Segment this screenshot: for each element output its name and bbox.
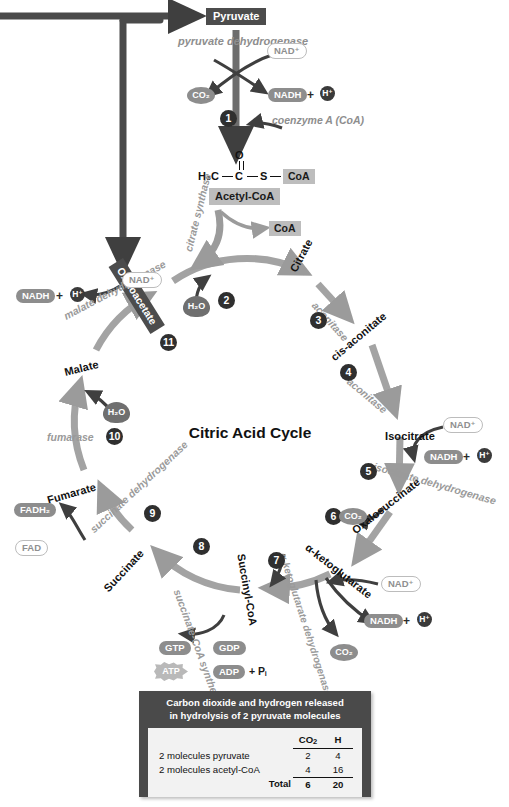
co2-step6: CO₂ bbox=[339, 508, 367, 525]
inorganic-phosphate-label: + Pᵢ bbox=[249, 666, 267, 677]
total-co2: 6 bbox=[293, 777, 323, 791]
carbon-text: C bbox=[235, 170, 243, 182]
plus-sign-step1: + bbox=[307, 89, 314, 101]
header-h: H bbox=[323, 733, 353, 748]
co2-step1: CO₂ bbox=[187, 87, 215, 104]
nad-plus-step7: NAD⁺ bbox=[381, 576, 421, 592]
pyruvate-dehydrogenase-label: pyruvate dehydrogenase bbox=[178, 36, 274, 48]
step-badge-4: 4 bbox=[340, 364, 357, 381]
sulfur-text: S bbox=[260, 170, 267, 182]
summary-panel: Carbon dioxide and hydrogen released in … bbox=[139, 691, 371, 797]
plus-sign-step11: + bbox=[56, 290, 63, 302]
sulfur-atom: S bbox=[260, 170, 267, 182]
row-h-pyruvate: 4 bbox=[323, 748, 353, 762]
total-h: 20 bbox=[323, 777, 353, 791]
summary-caption-line2: in hydrolysis of 2 pyruvate molecules bbox=[149, 710, 361, 723]
nadh-step5: NADH bbox=[424, 450, 463, 464]
step-badge-10: 10 bbox=[106, 428, 123, 445]
nadh-step11: NADH bbox=[16, 289, 55, 303]
carbonyl-carbon: C bbox=[235, 170, 243, 182]
h-plus-step5: H⁺ bbox=[477, 448, 492, 463]
step-badge-2: 2 bbox=[218, 292, 235, 309]
plus-sign-step7: + bbox=[403, 615, 410, 627]
nad-plus-step5: NAD⁺ bbox=[443, 417, 483, 433]
diagram-vector-layer bbox=[0, 0, 509, 807]
total-label: Total bbox=[157, 777, 293, 791]
step-badge-1: 1 bbox=[220, 110, 237, 127]
row-label-acetylcoa: 2 molecules acetyl-CoA bbox=[157, 763, 293, 777]
fadh2-label: FADH₂ bbox=[14, 503, 56, 517]
table-row: 2 molecules acetyl-CoA 4 16 bbox=[157, 763, 353, 777]
bond-carbon-sulfur bbox=[247, 176, 258, 177]
carbonyl-oxygen: O bbox=[235, 149, 244, 161]
step-badge-9: 9 bbox=[144, 505, 161, 522]
h2o-citrate-synthase: H₂O bbox=[183, 296, 210, 317]
h-plus-step1: H⁺ bbox=[320, 86, 335, 101]
pyruvate-to-oxaloacetate-arrow bbox=[123, 20, 160, 266]
h-plus-step7: H⁺ bbox=[417, 612, 432, 627]
summary-table-wrapper: CO2 H 2 molecules pyruvate 2 4 2 molecul… bbox=[148, 728, 362, 798]
row-co2-acetylcoa: 4 bbox=[293, 763, 323, 777]
coa-group-label: CoA bbox=[283, 169, 315, 184]
summary-caption: Carbon dioxide and hydrogen released in … bbox=[139, 691, 371, 728]
nad-plus-step11: NAD⁺ bbox=[122, 272, 162, 288]
adp-label: ADP bbox=[213, 665, 245, 679]
oxygen-text: O bbox=[235, 149, 244, 161]
coenzyme-a-label: coenzyme A (CoA) bbox=[272, 115, 364, 126]
fumarase-label: fumarase bbox=[47, 432, 94, 443]
bond-sulfur-coa bbox=[270, 176, 281, 177]
gdp-label: GDP bbox=[213, 641, 246, 655]
table-header-row: CO2 H bbox=[157, 733, 353, 748]
step-badge-11: 11 bbox=[160, 334, 177, 351]
fad-label: FAD bbox=[15, 540, 48, 556]
nadh-step7: NADH bbox=[364, 614, 403, 628]
coa-release-arrow bbox=[221, 212, 266, 228]
cycle-title-text: Citric Acid Cycle bbox=[189, 424, 312, 441]
nad-plus-step1: NAD⁺ bbox=[267, 43, 307, 59]
step-badge-7: 7 bbox=[268, 552, 285, 569]
header-co2: CO2 bbox=[293, 733, 323, 748]
acetyl-coa-label: Acetyl-CoA bbox=[209, 188, 280, 205]
summary-caption-line1: Carbon dioxide and hydrogen released bbox=[149, 697, 361, 710]
header-blank bbox=[157, 733, 293, 748]
summary-table: CO2 H 2 molecules pyruvate 2 4 2 molecul… bbox=[157, 733, 353, 792]
step-badge-3: 3 bbox=[310, 312, 327, 329]
coa-release-label: CoA bbox=[269, 221, 301, 236]
table-row: 2 molecules pyruvate 2 4 bbox=[157, 748, 353, 762]
step-badge-5: 5 bbox=[360, 463, 377, 480]
row-label-pyruvate: 2 molecules pyruvate bbox=[157, 748, 293, 762]
h2o-fumarase: H₂O bbox=[103, 402, 130, 423]
plus-sign-step5: + bbox=[463, 451, 470, 463]
step-badge-8: 8 bbox=[193, 538, 210, 555]
double-bond-left bbox=[239, 161, 240, 170]
row-h-acetylcoa: 16 bbox=[323, 763, 353, 777]
h-plus-step11: H⁺ bbox=[70, 287, 85, 302]
pyruvate-label: Pyruvate bbox=[206, 8, 266, 25]
isocitrate-label: Isocitrate bbox=[385, 431, 435, 442]
table-total-row: Total 6 20 bbox=[157, 777, 353, 791]
bond-methyl-carbon bbox=[222, 176, 233, 177]
nadh-step1: NADH bbox=[268, 88, 307, 102]
row-co2-pyruvate: 2 bbox=[293, 748, 323, 762]
gtp-label: GTP bbox=[159, 641, 191, 655]
citric-acid-cycle-diagram: Pyruvate pyruvate dehydrogenase NAD⁺ CO₂… bbox=[0, 0, 509, 807]
double-bond-right bbox=[243, 161, 244, 170]
co2-step7: CO₂ bbox=[330, 644, 358, 661]
step9-fad-arrow bbox=[62, 505, 85, 540]
